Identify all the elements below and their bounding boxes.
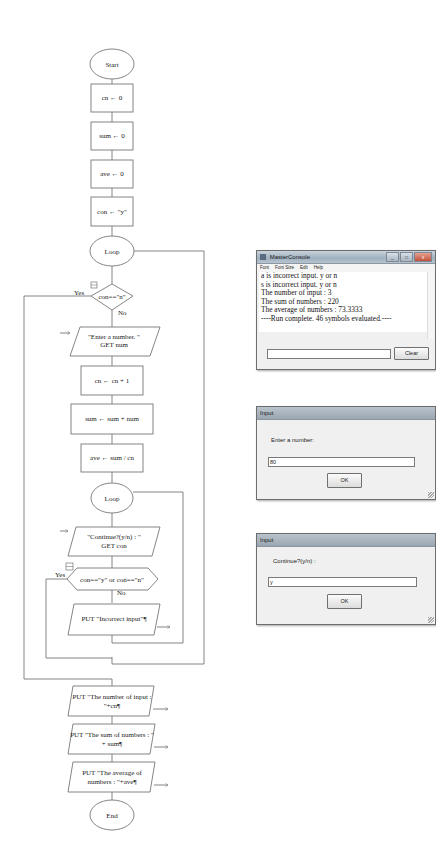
close-button[interactable]: x <box>414 252 432 262</box>
menu-help[interactable]: Help <box>314 264 323 272</box>
output-ave-line2: numbers : "+ave¶ <box>87 778 137 786</box>
minimize-button[interactable]: _ <box>386 252 399 262</box>
outer-condition-label: con=="n" <box>98 293 125 301</box>
assign-sum: sum ← 0 <box>91 122 133 150</box>
inner-loop: Loop <box>91 483 133 513</box>
master-console-window: MasterConsole _ □ x Font Font Size Edit … <box>256 250 436 370</box>
output-count-line2: "+cn¶ <box>104 702 121 710</box>
output-count-line1: PUT "The number of input : <box>72 693 151 701</box>
add-sum: sum ← sum + num <box>71 404 153 434</box>
input-number-prompt: "Enter a number. " <box>88 333 140 341</box>
start-label: Start <box>105 61 118 69</box>
inner-condition-label: con=="y" or con=="n" <box>80 576 144 584</box>
inner-yes-label: Yes <box>55 571 65 579</box>
console-scrollbar[interactable] <box>427 272 434 339</box>
outer-no-label: No <box>118 309 127 317</box>
increment-cn-label: cn ← cn + 1 <box>95 377 130 385</box>
output-incorrect-label: PUT "Incorrect input"¶ <box>81 615 147 623</box>
assign-cn-label: cn ← 0 <box>102 94 123 102</box>
dialog-number-input[interactable]: 80 <box>268 457 415 467</box>
menu-edit[interactable]: Edit <box>300 264 308 272</box>
dialog-number-titlebar[interactable]: Input <box>257 407 435 420</box>
input-dialog-continue: Input Continue?(y/n) : y OK <box>256 533 436 625</box>
console-input[interactable] <box>267 349 391 359</box>
inner-no-label: No <box>117 589 126 597</box>
outer-loop-label: Loop <box>105 248 120 256</box>
output-count: PUT "The number of input : "+cn¶ <box>68 686 154 716</box>
output-sum: PUT "The sum of numbers : " + sum¶ <box>68 724 155 754</box>
console-output: a is incorrect input. y or n s is incorr… <box>259 272 427 332</box>
dialog-number-title: Input <box>260 410 273 416</box>
end-terminator: End <box>90 800 134 830</box>
resize-grip[interactable] <box>428 617 434 623</box>
dialog-continue-input[interactable]: y <box>268 577 417 587</box>
assign-con: con ← "y" <box>91 197 133 226</box>
input-continue: "Continue?(y/n) : " GET con <box>68 527 160 556</box>
calc-ave: ave ← sum / cn <box>81 444 143 472</box>
console-titlebar[interactable]: MasterConsole _ □ x <box>257 251 435 264</box>
menu-font-size[interactable]: Font Size <box>275 264 294 272</box>
assign-con-label: con ← "y" <box>97 208 127 216</box>
outer-loop: Loop <box>90 236 134 266</box>
output-ave-line1: PUT "The average of <box>82 769 142 777</box>
assign-ave: ave ← 0 <box>91 160 133 188</box>
end-label: End <box>106 812 118 820</box>
dialog-continue-title: Input <box>260 537 273 543</box>
assign-cn: cn ← 0 <box>91 84 133 112</box>
dialog-number-ok-button[interactable]: OK <box>327 473 362 488</box>
start-terminator: Start <box>90 49 134 79</box>
console-title: MasterConsole <box>270 254 310 260</box>
menu-font[interactable]: Font <box>260 264 269 272</box>
dialog-continue-titlebar[interactable]: Input <box>257 534 435 547</box>
calc-ave-label: ave ← sum / cn <box>90 454 134 462</box>
output-incorrect: PUT "Incorrect input"¶ <box>68 604 160 635</box>
add-sum-label: sum ← sum + num <box>85 415 139 423</box>
inner-loop-label: Loop <box>105 495 120 503</box>
input-dialog-number: Input Enter a number: 80 OK <box>256 406 436 500</box>
console-line: ----Run complete. 46 symbols evaluated.-… <box>261 315 427 324</box>
dialog-continue-ok-button[interactable]: OK <box>327 594 362 609</box>
input-number: "Enter a number. " GET num <box>70 327 160 356</box>
assign-ave-label: ave ← 0 <box>100 170 124 178</box>
input-number-get: GET num <box>100 341 128 349</box>
console-app-icon <box>260 254 266 260</box>
maximize-button[interactable]: □ <box>400 252 413 262</box>
output-sum-line2: + sum¶ <box>102 740 123 748</box>
inner-condition: con=="y" or con=="n" <box>67 568 158 590</box>
increment-cn: cn ← cn + 1 <box>81 366 143 395</box>
flowchart: Start cn ← 0 sum ← 0 ave ← 0 con ← "y" L… <box>0 0 240 860</box>
clear-button[interactable]: Clear <box>394 347 429 360</box>
resize-grip[interactable] <box>428 492 434 498</box>
dialog-number-prompt: Enter a number: <box>271 437 314 443</box>
console-menubar: Font Font Size Edit Help <box>257 264 435 272</box>
input-continue-get: GET con <box>101 542 127 550</box>
assign-sum-label: sum ← 0 <box>99 132 125 140</box>
input-continue-prompt: "Continue?(y/n) : " <box>87 533 141 541</box>
dialog-continue-prompt: Continue?(y/n) : <box>273 558 316 564</box>
output-sum-line1: PUT "The sum of numbers : " <box>70 731 154 739</box>
output-ave: PUT "The average of numbers : "+ave¶ <box>68 762 155 792</box>
